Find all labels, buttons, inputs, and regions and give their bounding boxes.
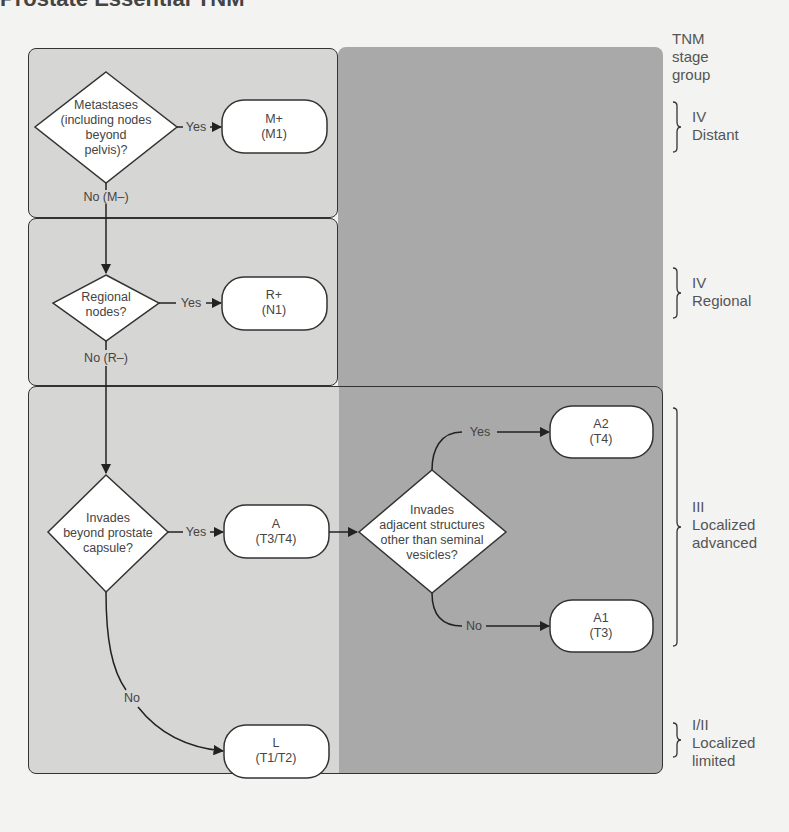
edge-label-adjacent-no: No [465, 619, 483, 633]
result-l: L (T1/T2) [256, 736, 297, 766]
stage-localized-limited: I/II Localized limited [692, 716, 755, 770]
result-m-plus: M+ (M1) [261, 112, 287, 142]
stage-line: advanced [692, 534, 757, 552]
result-a1: A1 (T3) [590, 611, 613, 641]
node-line: (M1) [261, 127, 287, 142]
node-line: beyond [60, 128, 151, 143]
node-line: Invades [63, 511, 153, 526]
stage-line: Distant [692, 126, 739, 144]
node-line: (T3) [590, 626, 613, 641]
edge-label-regional-yes: Yes [180, 296, 202, 310]
node-line: M+ [261, 112, 287, 127]
bracket-regional [673, 268, 681, 318]
node-line: nodes? [81, 305, 130, 320]
stage-line: IV [692, 274, 751, 292]
node-line: beyond prostate [63, 526, 153, 541]
decision-capsule: Invades beyond prostate capsule? [63, 511, 153, 556]
node-line: capsule? [63, 541, 153, 556]
stage-line: Localized [692, 734, 755, 752]
node-line: (N1) [262, 303, 286, 318]
node-line: A [256, 517, 297, 532]
decision-adjacent: Invades adjacent structures other than s… [379, 503, 485, 563]
result-r-plus: R+ (N1) [262, 288, 286, 318]
edge-label-capsule-no: No [123, 691, 141, 705]
stage-header: TNM stage group [672, 30, 710, 84]
node-line: R+ [262, 288, 286, 303]
node-line: Metastases [60, 98, 151, 113]
edge-label-regional-no: No (R–) [83, 351, 129, 365]
edge-label-metastases-yes: Yes [185, 120, 207, 134]
stage-line: Regional [692, 292, 751, 310]
node-line: (T3/T4) [256, 532, 297, 547]
node-line: (T1/T2) [256, 751, 297, 766]
node-line: adjacent structures [379, 518, 485, 533]
bracket-distant [673, 102, 681, 152]
stage-line: limited [692, 752, 755, 770]
node-line: A1 [590, 611, 613, 626]
bracket-localized-limited [673, 723, 681, 757]
stage-line: III [692, 498, 757, 516]
stage-header-line: group [672, 66, 710, 84]
decision-metastases: Metastases (including nodes beyond pelvi… [60, 98, 151, 158]
stage-header-line: TNM [672, 30, 710, 48]
stage-line: IV [692, 108, 739, 126]
edge-label-adjacent-yes: Yes [469, 425, 491, 439]
edge-label-capsule-yes: Yes [185, 525, 207, 539]
edge-label-metastases-no: No (M–) [82, 190, 129, 204]
stage-header-line: stage [672, 48, 710, 66]
stage-line: Localized [692, 516, 757, 534]
node-line: other than seminal [379, 533, 485, 548]
node-line: vesicles? [379, 548, 485, 563]
stage-regional: IV Regional [692, 274, 751, 310]
result-a: A (T3/T4) [256, 517, 297, 547]
decision-regional: Regional nodes? [81, 290, 130, 320]
node-line: Invades [379, 503, 485, 518]
result-a2: A2 (T4) [590, 417, 613, 447]
node-line: pelvis)? [60, 143, 151, 158]
node-line: A2 [590, 417, 613, 432]
node-line: Regional [81, 290, 130, 305]
stage-distant: IV Distant [692, 108, 739, 144]
node-line: (including nodes [60, 113, 151, 128]
bracket-localized-advanced [673, 408, 681, 646]
node-line: L [256, 736, 297, 751]
node-line: (T4) [590, 432, 613, 447]
stage-line: I/II [692, 716, 755, 734]
stage-localized-advanced: III Localized advanced [692, 498, 757, 552]
